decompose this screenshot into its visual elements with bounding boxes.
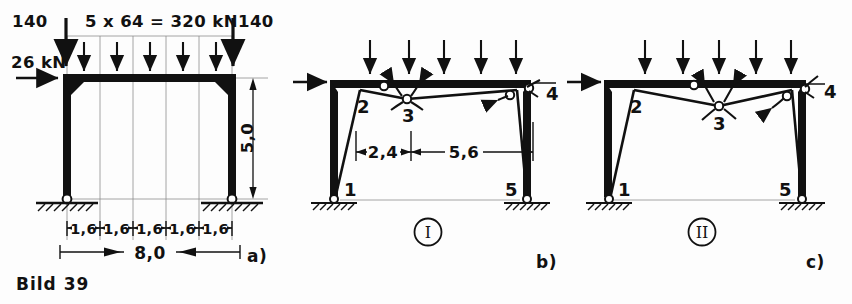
panel-c-joint-label-1: 1: [618, 179, 631, 200]
hinge-2-c: [690, 81, 698, 89]
panel-c-joint-label-4: 4: [824, 81, 837, 102]
panel-a-key-label: a): [247, 246, 267, 266]
figure-svg: 5 x 64 = 320 kN 140 140 26 kN: [0, 0, 852, 304]
hinge-3-b: [403, 95, 411, 103]
hinge-2-b: [380, 82, 388, 90]
panel-a-distributed-load-label: 5 x 64 = 320 kN: [85, 12, 238, 31]
panel-b-joint-label-3: 3: [402, 105, 415, 126]
hinge-3-c: [715, 102, 723, 110]
panel-c: 1 2 3 4 5 II c): [567, 40, 837, 272]
figure-bild-39: 5 x 64 = 320 kN 140 140 26 kN: [0, 0, 852, 304]
panel-b-joint-label-5: 5: [505, 179, 518, 200]
panel-a-bay-label-5: 1,6: [202, 221, 229, 237]
panel-a-horizontal-load-label: 26 kN: [11, 53, 67, 72]
panel-c-key-label: c): [806, 252, 825, 272]
panel-a-frame: [63, 74, 236, 199]
panel-b: 1 2 3 4 5 2,4 5,6 I b): [293, 40, 559, 272]
panel-b-joint-label-1: 1: [344, 179, 357, 200]
panel-b-dim-right-label: 5,6: [449, 143, 479, 162]
panel-b-mechanism-id-label: I: [425, 223, 431, 242]
panel-a-bay-label-1: 1,6: [70, 221, 97, 237]
panel-a: 5 x 64 = 320 kN 140 140 26 kN: [11, 12, 274, 266]
panel-c-joint-label-3: 3: [713, 113, 726, 134]
panel-a-left-point-load-label: 140: [12, 12, 48, 31]
panel-b-load-arrows: [370, 40, 516, 74]
panel-c-joint-label-5: 5: [779, 179, 792, 200]
panel-a-bay-label-3: 1,6: [136, 221, 163, 237]
panel-b-joint-label-4: 4: [546, 83, 559, 104]
panel-c-mechanism-id-label: II: [696, 223, 709, 242]
panel-a-load-arrows: [84, 42, 216, 71]
panel-c-joint-label-2: 2: [630, 96, 643, 117]
panel-a-span-label: 8,0: [134, 243, 166, 263]
panel-b-dim-left-label: 2,4: [368, 143, 398, 162]
panel-a-bay-labels: 1,6 1,6 1,6 1,6 1,6: [70, 218, 229, 238]
panel-c-load-arrows: [645, 40, 791, 74]
figure-caption: Bild 39: [16, 274, 89, 294]
panel-b-key-label: b): [536, 252, 557, 272]
panel-a-bay-label-2: 1,6: [103, 221, 130, 237]
panel-b-mechanism-id: I: [415, 219, 442, 246]
panel-a-bay-label-4: 1,6: [169, 221, 196, 237]
panel-a-right-point-load-label: 140: [238, 12, 274, 31]
hinge-4a-b: [506, 91, 514, 99]
panel-b-joint-label-2: 2: [357, 96, 370, 117]
panel-c-mechanism-id: II: [689, 219, 716, 246]
panel-a-height-label: 5,0: [238, 123, 257, 153]
